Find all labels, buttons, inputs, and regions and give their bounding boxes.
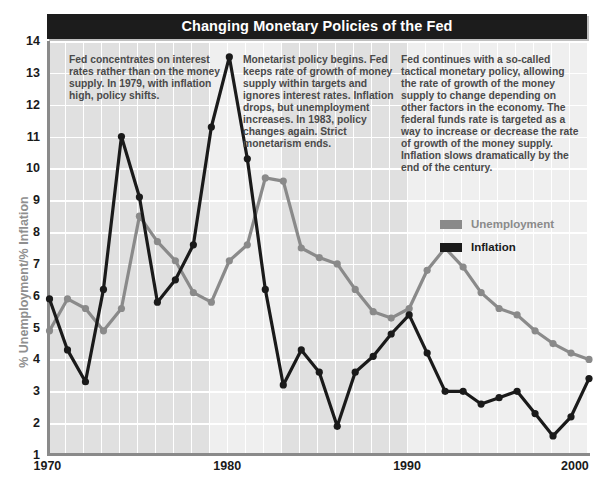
annotation-policy-era-2: Monetarist policy begins. Fed keeps rate…	[243, 54, 403, 150]
legend-label-inflation: Inflation	[471, 241, 516, 253]
y-tick-label: 12	[8, 99, 40, 111]
chart-figure: Changing Monetary Policies of the Fed 12…	[0, 0, 594, 489]
annotation-policy-era-1: Fed concentrates on interest rates rathe…	[69, 54, 234, 102]
x-tick-label: 2000	[561, 459, 589, 473]
x-tick-label: 1990	[393, 459, 421, 473]
legend-item-inflation: Inflation	[440, 239, 554, 255]
legend-swatch-unemployment	[440, 220, 462, 229]
x-tick-label: 1970	[34, 459, 62, 473]
legend-item-unemployment: Unemployment	[440, 216, 554, 232]
y-tick-label: 2	[8, 417, 40, 429]
y-tick-label: 14	[8, 35, 40, 47]
chart-legend: Unemployment Inflation	[440, 216, 554, 262]
x-tick-label: 1980	[213, 459, 241, 473]
y-tick-label: 13	[8, 67, 40, 79]
y-axis-title: % Unemployment/% Inflation	[17, 172, 31, 392]
legend-label-unemployment: Unemployment	[471, 218, 554, 230]
annotation-policy-era-3: Fed continues with a so-called tactical …	[401, 54, 581, 174]
y-tick-label: 11	[8, 131, 40, 143]
legend-swatch-inflation	[440, 243, 462, 252]
